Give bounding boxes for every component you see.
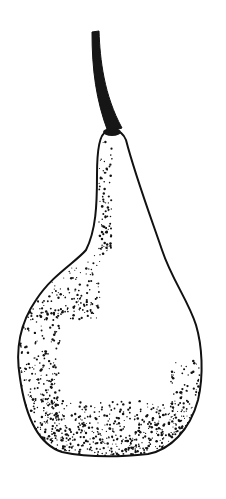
pear-illustration [0, 0, 226, 499]
stem-base [103, 128, 121, 136]
